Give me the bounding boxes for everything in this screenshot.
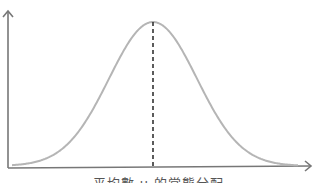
- x-axis: [8, 161, 311, 171]
- normal-curve: [12, 22, 298, 165]
- normal-distribution-diagram: [0, 0, 317, 183]
- y-axis: [3, 11, 13, 168]
- diagram-caption: 平均數 μ 的常態分配: [0, 173, 317, 183]
